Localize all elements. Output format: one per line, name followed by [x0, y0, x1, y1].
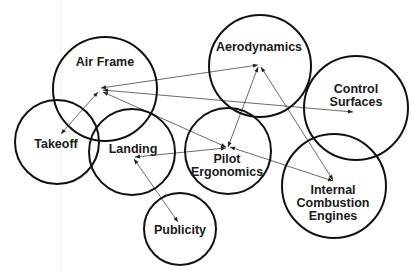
node-control-surfaces: Control Surfaces [304, 56, 408, 160]
airframe-label: Air Frame [76, 55, 134, 69]
node-landing: Landing [89, 109, 175, 195]
concept-diagram: Air Frame Aerodynamics Control Surfaces … [0, 0, 420, 272]
aerodynamics-label: Aerodynamics [216, 40, 302, 54]
relation-arrow [61, 92, 98, 134]
ice-label-line2: Combustion [297, 196, 370, 210]
arrowhead-icon [221, 143, 226, 147]
arrowhead-icon [134, 159, 139, 164]
arrowhead-icon [261, 67, 265, 72]
aerodynamics-circle [209, 15, 311, 117]
arrowhead-icon [253, 64, 258, 68]
takeoff-label: Takeoff [34, 137, 78, 151]
node-aerodynamics: Aerodynamics [209, 15, 311, 117]
control-surfaces-label-line1: Control [334, 82, 378, 96]
relation-arrow [261, 67, 333, 180]
arrowhead-icon [103, 92, 108, 96]
arrowhead-icon [221, 147, 226, 151]
arrowhead-icon [230, 147, 235, 151]
arrowhead-icon [254, 67, 258, 72]
arrowhead-icon [101, 85, 106, 89]
ice-label-line3: Engines [309, 209, 358, 223]
pilot-ergonomics-label-line2: Ergonomics [191, 165, 263, 179]
node-takeoff: Takeoff [15, 100, 99, 184]
ice-label-line1: Internal [310, 183, 355, 197]
control-surfaces-label-line2: Surfaces [330, 95, 383, 109]
node-internal-combustion-engines: Internal Combustion Engines [282, 134, 386, 238]
airframe-circle [53, 37, 157, 141]
relation-arrow [228, 67, 258, 147]
publicity-label: Publicity [154, 223, 206, 237]
node-airframe: Air Frame [53, 37, 157, 141]
node-publicity: Publicity [144, 193, 216, 265]
pilot-ergonomics-label-line1: Pilot [213, 152, 241, 166]
arrowhead-icon [173, 217, 178, 222]
landing-label: Landing [109, 142, 158, 156]
arrowhead-icon [228, 142, 232, 147]
